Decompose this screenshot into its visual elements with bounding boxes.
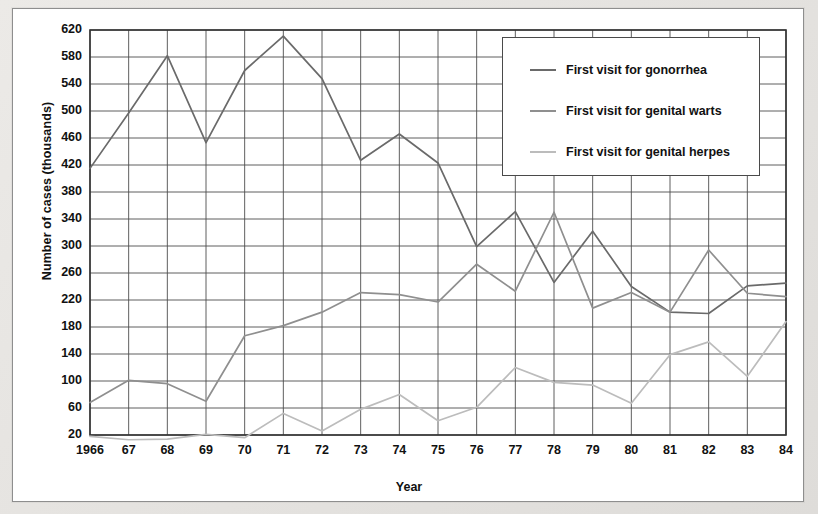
y-tick-label: 180 — [36, 319, 82, 333]
chart-figure: Number of cases (thousands) Year 6205805… — [12, 8, 804, 502]
y-tick-label: 220 — [36, 292, 82, 306]
legend-item-label: First visit for gonorrhea — [566, 63, 707, 77]
y-tick-label: 140 — [36, 346, 82, 360]
y-tick-label: 540 — [36, 76, 82, 90]
y-tick-label: 620 — [36, 22, 82, 36]
y-tick-label: 580 — [36, 49, 82, 63]
y-tick-label: 300 — [36, 238, 82, 252]
y-tick-label: 100 — [36, 373, 82, 387]
y-tick-label: 20 — [36, 427, 82, 441]
legend-swatch-line-icon — [530, 151, 556, 153]
x-tick-label: 84 — [763, 443, 809, 457]
legend-swatch-line-icon — [530, 69, 556, 71]
y-tick-label: 380 — [36, 184, 82, 198]
y-tick-label: 60 — [36, 400, 82, 414]
y-tick-label: 500 — [36, 103, 82, 117]
y-tick-label: 340 — [36, 211, 82, 225]
y-tick-label: 260 — [36, 265, 82, 279]
legend-item-label: First visit for genital herpes — [566, 145, 730, 159]
figure-page: Number of cases (thousands) Year 6205805… — [0, 0, 818, 514]
x-axis-title: Year — [13, 480, 805, 494]
y-tick-label: 420 — [36, 157, 82, 171]
legend-item-label: First visit for genital warts — [566, 104, 722, 118]
legend-swatch-line-icon — [530, 110, 556, 112]
legend-item: First visit for genital herpes — [530, 144, 730, 160]
legend-item: First visit for genital warts — [530, 103, 722, 119]
y-tick-label: 460 — [36, 130, 82, 144]
chart-legend: First visit for gonorrheaFirst visit for… — [502, 37, 760, 176]
legend-item: First visit for gonorrhea — [530, 62, 707, 78]
